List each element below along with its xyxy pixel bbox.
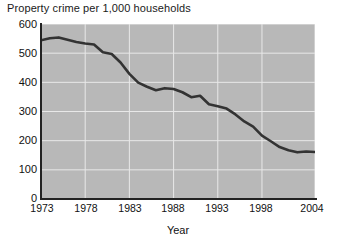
y-axis-line bbox=[40, 23, 42, 200]
x-tick-label: 2004 bbox=[300, 202, 323, 214]
y-tick-label: 200 bbox=[19, 134, 37, 146]
x-tick-label: 1978 bbox=[74, 202, 97, 214]
x-tick-label: 1998 bbox=[249, 202, 272, 214]
horizontal-gridlines bbox=[41, 24, 315, 170]
x-tick-label: 1993 bbox=[205, 202, 228, 214]
x-tick-label: 1983 bbox=[118, 202, 141, 214]
property-crime-line-chart: Property crime per 1,000 households 600 … bbox=[0, 0, 352, 246]
x-axis-title: Year bbox=[167, 224, 189, 236]
x-tick-label: 1988 bbox=[161, 202, 184, 214]
y-tick-label: 300 bbox=[19, 105, 37, 117]
x-axis-line bbox=[40, 198, 317, 200]
data-line-series bbox=[41, 37, 315, 152]
y-tick-label: 100 bbox=[19, 163, 37, 175]
y-tick-label: 500 bbox=[19, 47, 37, 59]
y-tick-label: 400 bbox=[19, 76, 37, 88]
y-tick-label: 600 bbox=[19, 18, 37, 30]
plot-svg bbox=[41, 24, 315, 199]
plot-frame bbox=[41, 24, 315, 199]
x-tick-label: 1973 bbox=[30, 202, 53, 214]
